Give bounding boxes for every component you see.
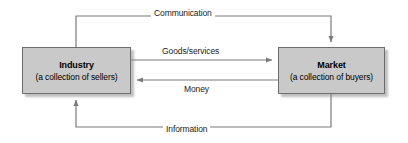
node-industry-title: Industry	[59, 59, 94, 71]
node-market[interactable]: Market (a collection of buyers)	[278, 47, 385, 94]
node-market-title: Market	[317, 59, 345, 71]
edge-label-information: Information	[163, 124, 210, 134]
edge-label-money: Money	[181, 84, 212, 94]
edge-label-communication: Communication	[151, 8, 215, 18]
node-industry-subtitle: (a collection of sellers)	[35, 71, 117, 83]
edge-label-goods-services: Goods/services	[159, 46, 222, 56]
node-industry[interactable]: Industry (a collection of sellers)	[22, 47, 131, 94]
edge-communication-path	[76, 16, 331, 47]
node-market-subtitle: (a collection of buyers)	[290, 71, 373, 83]
flow-diagram: Industry (a collection of sellers) Marke…	[0, 0, 408, 143]
edge-information-path	[76, 94, 331, 127]
